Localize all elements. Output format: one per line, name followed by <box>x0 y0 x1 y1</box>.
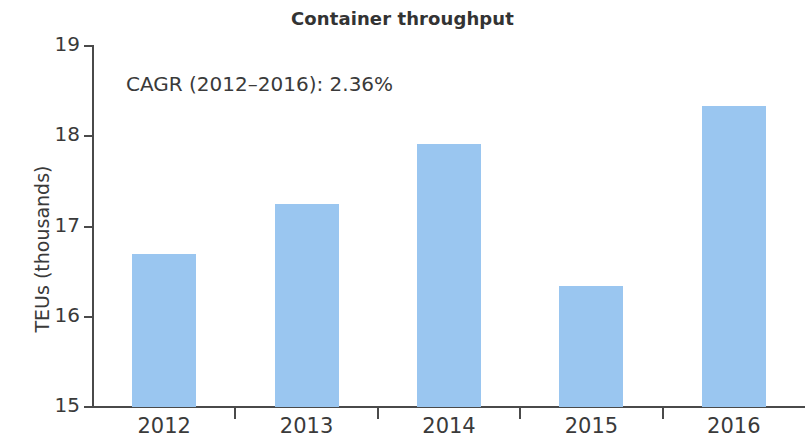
x-axis-tick <box>234 408 236 419</box>
bars-layer <box>93 46 805 407</box>
bar-2016 <box>702 106 766 407</box>
x-axis-tick-label: 2012 <box>104 414 224 438</box>
bar-2014 <box>417 144 481 407</box>
x-axis-tick <box>662 408 664 419</box>
y-axis-tick <box>84 316 93 318</box>
cagr-annotation: CAGR (2012–2016): 2.36% <box>126 72 393 96</box>
y-axis-tick-labels: 1516171819 <box>20 0 80 444</box>
y-axis-tick <box>84 226 93 228</box>
chart-figure: Container throughput TEUs (thousands) 15… <box>0 0 805 444</box>
chart-title: Container throughput <box>0 8 805 29</box>
y-axis-tick-label: 17 <box>36 213 80 237</box>
bar-2012 <box>132 254 196 407</box>
x-axis-tick-label: 2016 <box>674 414 794 438</box>
y-axis-tick <box>84 45 93 47</box>
y-axis-tick-label: 16 <box>36 303 80 327</box>
plot-area <box>93 46 805 407</box>
bar-2015 <box>559 286 623 407</box>
y-axis-tick-label: 18 <box>36 122 80 146</box>
x-axis-tick <box>519 408 521 419</box>
x-axis-tick-label: 2014 <box>389 414 509 438</box>
bar-2013 <box>275 204 339 407</box>
y-axis-tick <box>84 406 93 408</box>
y-axis-tick-label: 15 <box>36 393 80 417</box>
y-axis-tick <box>84 135 93 137</box>
x-axis-tick <box>377 408 379 419</box>
y-axis-tick-label: 19 <box>36 32 80 56</box>
x-axis-tick-label: 2015 <box>531 414 651 438</box>
x-axis-tick-label: 2013 <box>247 414 367 438</box>
